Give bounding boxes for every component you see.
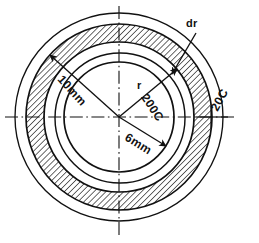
diagram-root: dr r 200C 20C 10mm 6mm (0, 0, 259, 243)
hatched-annulus (0, 0, 259, 243)
cross-section-figure (0, 0, 259, 243)
label-r: r (137, 79, 142, 91)
label-dr: dr (186, 17, 198, 29)
